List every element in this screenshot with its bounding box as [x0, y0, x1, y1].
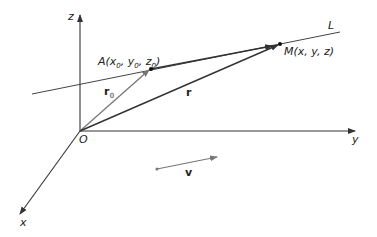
r0-vector	[80, 70, 149, 131]
point-M-label: M(x, y, z)	[284, 45, 334, 58]
x-axis-label: x	[19, 216, 27, 229]
point-M	[278, 42, 282, 46]
v-label: v	[185, 166, 193, 179]
vector-line-diagram: z y x O L A(x0, y0, z0) M(x, y, z) r0 r …	[0, 0, 377, 237]
origin-label: O	[79, 133, 88, 146]
z-axis-label: z	[67, 10, 74, 23]
AM-vector	[151, 46, 272, 69]
r0-label: r0	[104, 85, 114, 100]
point-A-label: A(x0, y0, z0)	[97, 55, 160, 70]
line-L-label: L	[328, 19, 334, 32]
r-label: r	[186, 86, 192, 99]
x-axis	[20, 131, 80, 214]
y-axis-label: y	[351, 133, 359, 146]
